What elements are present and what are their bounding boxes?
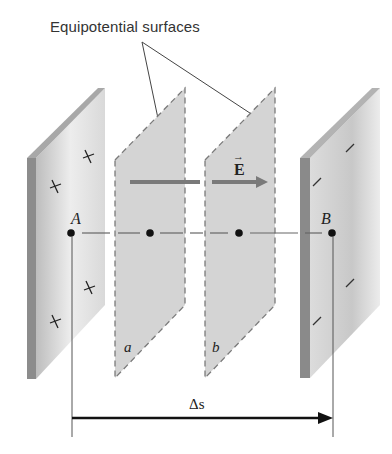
point-on-surface-a	[146, 229, 154, 237]
vector-arrow-symbol: →	[233, 150, 244, 162]
surface-a-label: a	[124, 339, 132, 355]
point-B-label: B	[321, 210, 331, 227]
point-A-label: A	[70, 210, 81, 227]
point-A	[67, 229, 75, 237]
field-label: E	[234, 161, 245, 178]
displacement-label: Δs	[189, 396, 205, 412]
displacement-arrow: Δs	[72, 237, 333, 437]
point-B	[328, 229, 336, 237]
diagram-canvas: a b E →	[0, 0, 392, 454]
point-on-surface-b	[235, 229, 243, 237]
surface-b-label: b	[212, 339, 220, 355]
